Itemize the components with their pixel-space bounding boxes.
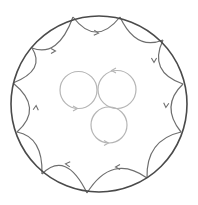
- inner-circle-bottom: [91, 107, 127, 143]
- boundary-arc: [87, 168, 147, 193]
- boundary-arc: [147, 132, 181, 178]
- inner-circle-left: [60, 72, 97, 109]
- boundary-arc: [171, 84, 183, 132]
- outer-boundary-circle: [11, 16, 187, 192]
- inner-circle-right: [98, 71, 136, 109]
- inner-vortex-circles: [60, 68, 136, 146]
- flow-arrow-icon: [163, 103, 169, 108]
- boundary-arcs: [13, 17, 183, 193]
- flow-arrow-icon: [65, 161, 70, 167]
- boundary-arc: [13, 83, 30, 132]
- boundary-arc: [73, 17, 120, 32]
- flow-arrow-icon: [151, 58, 156, 63]
- flow-arrow-icon: [33, 105, 39, 110]
- boundary-arc: [159, 40, 184, 84]
- flow-arrow-icon: [51, 48, 56, 53]
- boundary-arc: [42, 165, 87, 193]
- boundary-arc: [13, 48, 36, 83]
- flow-arrow-icon: [94, 30, 99, 36]
- vortex-diagram: [0, 0, 198, 205]
